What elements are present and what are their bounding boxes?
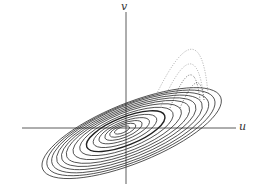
u-axis-label: u <box>239 120 246 133</box>
trajectory-ring <box>37 73 225 192</box>
phase-portrait <box>0 0 260 192</box>
v-axis-label: v <box>121 0 127 13</box>
trajectory-ring <box>59 88 197 176</box>
axes <box>22 12 236 184</box>
spiral-trajectories <box>31 69 231 192</box>
